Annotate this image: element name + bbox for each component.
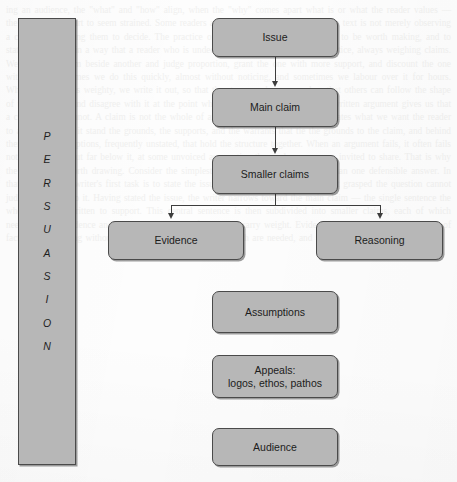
node-reasoning[interactable]: Reasoning <box>316 221 443 260</box>
diagram-page: ing an audience, the "what" and "how" al… <box>0 0 457 482</box>
node-assumptions-label: Assumptions <box>241 306 309 319</box>
node-issue-label: Issue <box>258 31 291 44</box>
persuasion-flowchart: P E R S U A S I O N Issue <box>0 0 457 482</box>
arrowhead-evidence <box>168 213 174 219</box>
node-evidence[interactable]: Evidence <box>108 221 244 260</box>
node-appeals[interactable]: Appeals: logos, ethos, pathos <box>212 355 338 398</box>
arrowhead-smaller-claims <box>272 148 278 154</box>
persuasion-letter-4: U <box>43 224 51 235</box>
node-audience-label: Audience <box>249 441 301 454</box>
connector-main-claim-to-smaller-claims <box>275 127 276 149</box>
node-audience[interactable]: Audience <box>212 428 338 466</box>
node-issue[interactable]: Issue <box>212 18 338 57</box>
persuasion-letter-1: E <box>43 154 50 165</box>
connector-split-bus <box>171 205 381 206</box>
persuasion-letter-5: A <box>43 248 50 259</box>
persuasion-letter-8: O <box>43 318 51 329</box>
node-main-claim-label: Main claim <box>246 101 304 114</box>
node-main-claim[interactable]: Main claim <box>212 88 338 127</box>
persuasion-sidebar: P E R S U A S I O N <box>18 18 76 465</box>
node-reasoning-label: Reasoning <box>350 234 408 247</box>
persuasion-letter-9: N <box>43 341 51 352</box>
node-evidence-label: Evidence <box>150 234 201 247</box>
node-smaller-claims-label: Smaller claims <box>237 168 313 181</box>
persuasion-letter-3: S <box>43 201 50 212</box>
arrowhead-reasoning <box>377 213 383 219</box>
connector-smaller-claims-stem <box>275 194 276 205</box>
persuasion-letter-7: I <box>46 294 49 305</box>
node-appeals-label: Appeals: logos, ethos, pathos <box>224 364 326 390</box>
connector-issue-to-main-claim <box>275 57 276 82</box>
persuasion-letter-0: P <box>43 131 50 142</box>
persuasion-letter-stack: P E R S U A S I O N <box>43 131 51 352</box>
persuasion-letter-6: S <box>43 271 50 282</box>
arrowhead-main-claim <box>272 81 278 87</box>
node-smaller-claims[interactable]: Smaller claims <box>212 155 338 194</box>
persuasion-letter-2: R <box>43 178 51 189</box>
node-assumptions[interactable]: Assumptions <box>212 291 338 333</box>
